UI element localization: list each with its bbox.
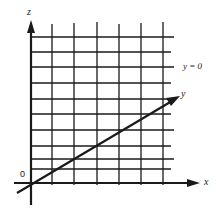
z-axis-label: z — [27, 7, 31, 17]
y-axis-label: y — [181, 89, 185, 99]
origin-label: 0 — [20, 170, 25, 179]
x-axis-label: x — [204, 177, 208, 187]
coordinate-diagram: z y x 0 y = 0 — [0, 0, 216, 209]
x-axis-arrow-icon — [187, 179, 200, 187]
grid-lines — [31, 22, 174, 185]
y-axis — [17, 101, 172, 193]
plane-label: y = 0 — [183, 62, 202, 71]
z-axis-arrow-icon — [27, 20, 35, 33]
grid-svg — [0, 0, 216, 209]
